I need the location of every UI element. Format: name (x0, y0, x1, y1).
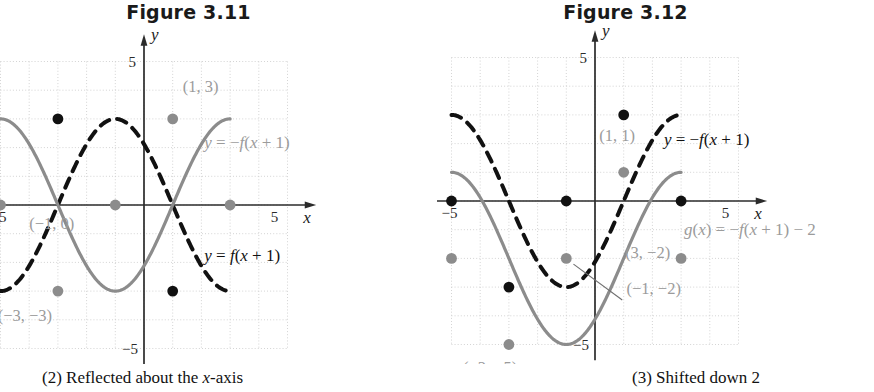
data-point-marker (561, 196, 572, 207)
data-point-marker (561, 253, 572, 264)
caption-prefix: (3) Shifted down 2 (632, 368, 760, 387)
equation-label: y = −f(x + 1) (662, 130, 749, 149)
y-tick-5: 5 (580, 50, 588, 66)
data-point-marker (53, 114, 64, 125)
caption-suffix: -axis (210, 368, 243, 387)
figure-caption: (2) Reflected about the x-axis (0, 368, 479, 388)
axes (437, 30, 767, 360)
graph-svg: −555−5xy(1, 3)(−1, 0)(−3, −3)y = −f(x + … (0, 24, 437, 364)
point-label: (3, −2) (625, 243, 670, 262)
y-axis-arrow (141, 34, 148, 45)
point-label: (1, 3) (183, 77, 219, 96)
x-tick-5: 5 (722, 205, 730, 221)
data-point-marker (618, 167, 629, 178)
data-point-marker (504, 282, 515, 293)
data-point-marker (53, 286, 64, 297)
figure-title: Figure 3.11 (0, 1, 437, 23)
y-tick-5: 5 (129, 54, 137, 70)
data-point-marker (676, 253, 687, 264)
figure-3-12: Figure 3.12 −555−5xy(1, 1)(3, −2)(−1, −2… (437, 0, 874, 392)
y-axis-arrow (592, 30, 599, 41)
x-tick-negative-5: −5 (442, 205, 458, 221)
data-point-marker (446, 196, 457, 207)
x-tick-negative-5: −5 (0, 209, 6, 225)
figure-caption: (3) Shifted down 2 (437, 368, 874, 388)
y-axis-label: y (600, 24, 610, 40)
point-label: (−1, −2) (627, 279, 681, 298)
data-point-marker (676, 196, 687, 207)
data-point-marker (618, 110, 629, 121)
x-tick-5: 5 (271, 209, 279, 225)
data-point-marker (504, 339, 515, 350)
point-label: (1, 1) (599, 126, 635, 145)
figure-title: Figure 3.12 (437, 1, 874, 23)
plot-area-3-12: −555−5xy(1, 1)(3, −2)(−1, −2)(−5, −2)(−3… (437, 24, 874, 364)
x-axis-label: x (302, 208, 311, 227)
caption-italic-var: x (203, 368, 211, 387)
data-point-marker (110, 200, 121, 211)
data-point-marker (225, 200, 236, 211)
plot-area-3-11: −555−5xy(1, 3)(−1, 0)(−3, −3)y = −f(x + … (0, 24, 437, 364)
point-label: (−1, 0) (29, 214, 74, 233)
equation-label: g(x) = −f(x + 1) − 2 (684, 220, 816, 239)
y-tick-negative-5: −5 (122, 341, 138, 357)
data-point-marker (167, 114, 178, 125)
data-point-marker (446, 253, 457, 264)
point-label: (−3, −5) (463, 358, 517, 364)
figure-pair: Figure 3.11 −555−5xy(1, 3)(−1, 0)(−3, −3… (0, 0, 874, 392)
y-axis-label: y (149, 25, 159, 44)
data-point-marker (167, 286, 178, 297)
graph-svg: −555−5xy(1, 1)(3, −2)(−1, −2)(−5, −2)(−3… (437, 24, 874, 364)
equation-label: y = −f(x + 1) (202, 133, 289, 152)
figure-3-11: Figure 3.11 −555−5xy(1, 3)(−1, 0)(−3, −3… (0, 0, 437, 392)
equation-label: y = f(x + 1) (202, 246, 280, 265)
point-label: (−3, −3) (0, 306, 52, 325)
axis-names: xy (149, 25, 311, 227)
caption-prefix: (2) Reflected about the (42, 368, 203, 387)
